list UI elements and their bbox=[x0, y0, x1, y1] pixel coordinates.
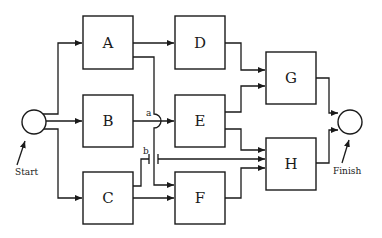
finish-pointer-arrow bbox=[342, 140, 349, 163]
edge-start-c bbox=[43, 129, 82, 198]
start-node bbox=[22, 110, 46, 134]
edge-h-finish bbox=[316, 130, 338, 163]
edge-e-h bbox=[225, 129, 265, 150]
node-c-label: C bbox=[102, 189, 113, 207]
node-d-label: D bbox=[194, 34, 206, 52]
crossing-label-a: a bbox=[146, 108, 152, 118]
node-e-label: E bbox=[195, 112, 206, 130]
edge-g-finish bbox=[316, 78, 338, 113]
finish-caption: Finish bbox=[333, 166, 361, 176]
node-g-label: G bbox=[285, 69, 297, 87]
node-b-label: B bbox=[102, 112, 113, 130]
edge-f-h bbox=[225, 168, 265, 198]
node-f-label: F bbox=[195, 189, 205, 207]
start-pointer-arrow bbox=[17, 141, 25, 165]
edge-start-a bbox=[43, 43, 82, 114]
node-a-label: A bbox=[102, 34, 114, 52]
edge-c-h-part1 bbox=[133, 159, 149, 186]
edge-e-g bbox=[225, 86, 265, 112]
edge-d-g bbox=[225, 43, 265, 70]
start-caption: Start bbox=[15, 167, 38, 177]
network-diagram: A B C D E F G H a b Start Finish bbox=[0, 0, 382, 238]
node-h-label: H bbox=[284, 155, 297, 173]
finish-node bbox=[338, 110, 362, 134]
crossing-label-b: b bbox=[143, 146, 149, 156]
